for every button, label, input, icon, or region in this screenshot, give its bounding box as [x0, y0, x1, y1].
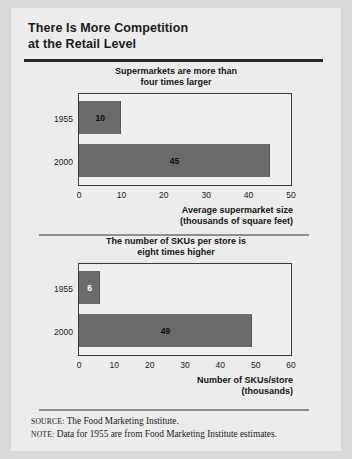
- chart-2-plot-area: 6 49: [78, 263, 292, 356]
- footer-divider: [39, 409, 309, 411]
- figure-title-line-2: at the Retail Level: [28, 36, 318, 52]
- chart-2-xtick-3: 30: [170, 360, 200, 370]
- note-text: Data for 1955 are from Food Marketing In…: [57, 429, 277, 439]
- chart-1-title: Supermarkets are more than four times la…: [26, 66, 326, 88]
- chart-1-x-axis-label-line-2: (thousands of square feet): [83, 216, 293, 227]
- chart-1-x-axis-label-line-1: Average supermarket size: [83, 205, 293, 216]
- chart-2-xtick-1: 10: [99, 360, 129, 370]
- chart-1-category-label-1: 2000: [13, 157, 73, 167]
- chart-2-bar-value-1955: 6: [87, 283, 92, 293]
- chart-2-x-axis-label-line-2: (thousands): [83, 386, 293, 397]
- chart-1-title-line-2: four times larger: [26, 77, 326, 88]
- chart-1-xtick-2: 20: [149, 190, 179, 200]
- source-label: SOURCE:: [31, 417, 64, 426]
- chart-2-title-line-2: eight times higher: [26, 247, 326, 258]
- chart-2-title: The number of SKUs per store is eight ti…: [26, 236, 326, 258]
- chart-1-title-line-1: Supermarkets are more than: [26, 66, 326, 77]
- chart-2-x-axis-label: Number of SKUs/store (thousands): [83, 375, 293, 397]
- chart-2-bars: 6 49: [79, 264, 291, 355]
- figure-footer: SOURCE: The Food Marketing Institute. NO…: [31, 415, 326, 441]
- source-text: The Food Marketing Institute.: [67, 416, 179, 426]
- chart-1-xtick-1: 10: [106, 190, 136, 200]
- title-divider: [24, 59, 323, 62]
- chart-2-title-line-1: The number of SKUs per store is: [26, 236, 326, 247]
- chart-2-xtick-6: 60: [276, 360, 306, 370]
- chart-2-bar-value-2000: 49: [161, 326, 170, 336]
- chart-2-x-axis-label-line-1: Number of SKUs/store: [83, 375, 293, 386]
- figure-title: There Is More Competition at the Retail …: [28, 20, 318, 52]
- chart-1-bar-value-1955: 10: [95, 113, 104, 123]
- source-row: SOURCE: The Food Marketing Institute.: [31, 415, 326, 428]
- figure-card: There Is More Competition at the Retail …: [11, 8, 341, 451]
- chart-1-xtick-5: 50: [276, 190, 306, 200]
- chart-1-bar-value-2000: 45: [170, 156, 179, 166]
- chart-1-xtick-4: 40: [234, 190, 264, 200]
- chart-1-plot-area: 10 45: [78, 93, 292, 186]
- chart-2-xtick-5: 50: [241, 360, 271, 370]
- chart-2-xtick-0: 0: [64, 360, 94, 370]
- chart-2-xtick-4: 40: [205, 360, 235, 370]
- figure-title-line-1: There Is More Competition: [28, 20, 318, 36]
- chart-1-xtick-0: 0: [64, 190, 94, 200]
- chart-1-category-label-0: 1955: [13, 114, 73, 124]
- chart-1-bars: 10 45: [79, 94, 291, 185]
- chart-2-category-label-0: 1955: [13, 284, 73, 294]
- chart-2-category-label-1: 2000: [13, 327, 73, 337]
- chart-1-x-axis-label: Average supermarket size (thousands of s…: [83, 205, 293, 227]
- chart-1-xtick-3: 30: [191, 190, 221, 200]
- note-row: NOTE: Data for 1955 are from Food Market…: [31, 428, 326, 441]
- note-label: NOTE:: [31, 430, 54, 439]
- chart-2-xtick-2: 20: [135, 360, 165, 370]
